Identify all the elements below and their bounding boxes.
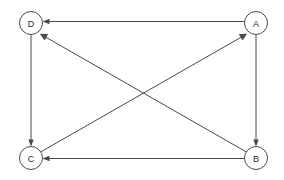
node-a-label: A [253,19,259,29]
figure-background [0,0,284,180]
node-b[interactable]: B [245,147,268,170]
node-c[interactable]: C [20,147,43,170]
node-d[interactable]: D [20,12,43,35]
node-c-label: C [28,154,35,164]
node-d-label: D [28,19,35,29]
node-b-label: B [253,154,259,164]
directed-graph-figure: D A C B [0,0,284,180]
node-a[interactable]: A [245,12,268,35]
